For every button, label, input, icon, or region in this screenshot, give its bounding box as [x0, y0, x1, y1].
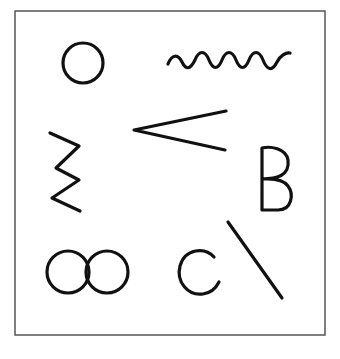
circle-shape: [63, 43, 103, 83]
angle-shape: [134, 111, 226, 150]
figure-canvas: [0, 0, 340, 359]
wavy-line-shape: [168, 53, 290, 69]
letter-b-shape: [262, 147, 291, 210]
letter-c-shape: [179, 251, 219, 295]
infinity-left-loop: [47, 251, 89, 293]
zigzag-shape: [50, 133, 80, 211]
diagonal-line-shape: [228, 222, 282, 298]
infinity-right-loop: [86, 251, 128, 293]
